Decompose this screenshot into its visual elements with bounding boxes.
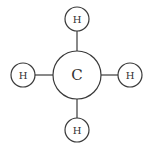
hydrogen-left: H xyxy=(11,63,35,87)
hydrogen-right-label: H xyxy=(126,70,135,81)
hydrogen-bottom-label: H xyxy=(73,125,82,136)
central-atom-carbon: C xyxy=(53,51,101,99)
hydrogen-right: H xyxy=(118,63,142,87)
hydrogen-top-label: H xyxy=(73,14,82,25)
hydrogen-top: H xyxy=(65,7,89,31)
hydrogen-left-label: H xyxy=(19,70,28,81)
hydrogen-bottom: H xyxy=(65,118,89,142)
carbon-label: C xyxy=(71,66,82,84)
methane-diagram: C H H H H xyxy=(0,0,151,151)
